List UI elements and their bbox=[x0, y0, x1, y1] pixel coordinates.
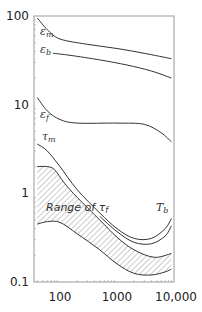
curve-2 bbox=[37, 98, 171, 142]
x-tick-label: 10,000 bbox=[155, 290, 197, 304]
curve-label: εb bbox=[40, 43, 51, 57]
x-tick-label: 100 bbox=[49, 290, 72, 304]
y-tick-label: 10 bbox=[14, 98, 29, 112]
curve-label: εm bbox=[40, 25, 54, 39]
curve-label: Tb bbox=[156, 201, 168, 215]
curve-1 bbox=[53, 53, 171, 78]
range-label: Range of τf bbox=[46, 201, 109, 215]
curve-0 bbox=[37, 18, 171, 59]
chart: 1001010.1100100010,000 εmεbεfτmTb Range … bbox=[0, 0, 202, 312]
x-tick-label: 1000 bbox=[102, 290, 133, 304]
y-tick-label: 0.1 bbox=[10, 275, 29, 289]
y-tick-label: 1 bbox=[21, 186, 29, 200]
curve-label: εf bbox=[40, 108, 51, 122]
curve-label: τm bbox=[42, 130, 56, 144]
y-tick-label: 100 bbox=[6, 9, 29, 23]
